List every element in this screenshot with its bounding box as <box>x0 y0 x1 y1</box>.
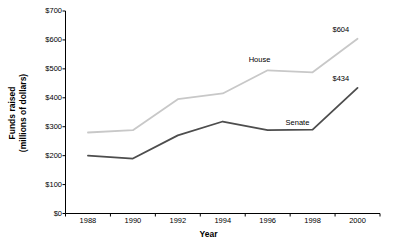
axis-lines <box>66 11 381 214</box>
series-line-house <box>88 39 358 133</box>
x-tick-label: 1998 <box>293 216 333 225</box>
series-label-house: House <box>248 55 272 64</box>
x-tick-label: 1992 <box>158 216 198 225</box>
x-axis-tick-labels: 1988199019921994199619982000 <box>0 216 395 230</box>
value-label-senate-2000: $434 <box>332 74 351 83</box>
value-label-house-2000: $604 <box>332 25 351 34</box>
x-tick-label: 1994 <box>203 216 243 225</box>
series-label-senate: Senate <box>285 118 311 127</box>
x-axis-title: Year <box>0 229 395 239</box>
plot-area <box>0 0 395 244</box>
x-tick-label: 1990 <box>113 216 153 225</box>
data-series-group <box>88 39 358 159</box>
series-line-senate <box>88 88 358 159</box>
axis-ticks <box>63 11 381 217</box>
x-tick-label: 2000 <box>338 216 378 225</box>
x-axis-title-text: Year <box>200 229 218 239</box>
chart-figure: Funds raised (millions of dollars) $0$10… <box>0 0 395 244</box>
x-tick-label: 1996 <box>248 216 288 225</box>
x-tick-label: 1988 <box>68 216 108 225</box>
